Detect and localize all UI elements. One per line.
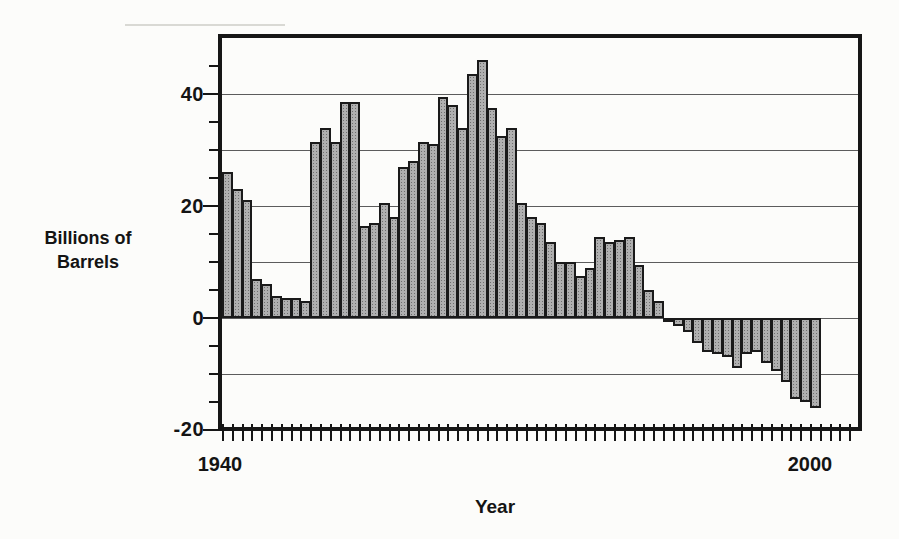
x-axis-title: Year bbox=[435, 496, 555, 518]
y-tick-label-0: 0 bbox=[148, 307, 204, 329]
y-axis-title: Billions of Barrels bbox=[16, 226, 160, 274]
y-major-tick--20 bbox=[203, 429, 219, 431]
y-major-tick-40 bbox=[203, 93, 219, 95]
y-tick-label-40: 40 bbox=[148, 83, 204, 105]
x-tick-label-1940: 1940 bbox=[190, 452, 250, 476]
figure: Billions of Barrels 40 20 0 -20 1940 200… bbox=[0, 0, 899, 539]
y-major-tick-20 bbox=[203, 205, 219, 207]
y-tick-label-20: 20 bbox=[148, 195, 204, 217]
y-major-tick-0 bbox=[203, 317, 219, 319]
y-tick-label-neg20: -20 bbox=[148, 418, 204, 440]
y-axis-title-line1: Billions of bbox=[16, 226, 160, 250]
y-axis-title-line2: Barrels bbox=[16, 250, 160, 274]
x-tick-label-2000: 2000 bbox=[780, 452, 840, 476]
plot-frame bbox=[218, 34, 862, 431]
scan-artifact bbox=[125, 24, 285, 26]
